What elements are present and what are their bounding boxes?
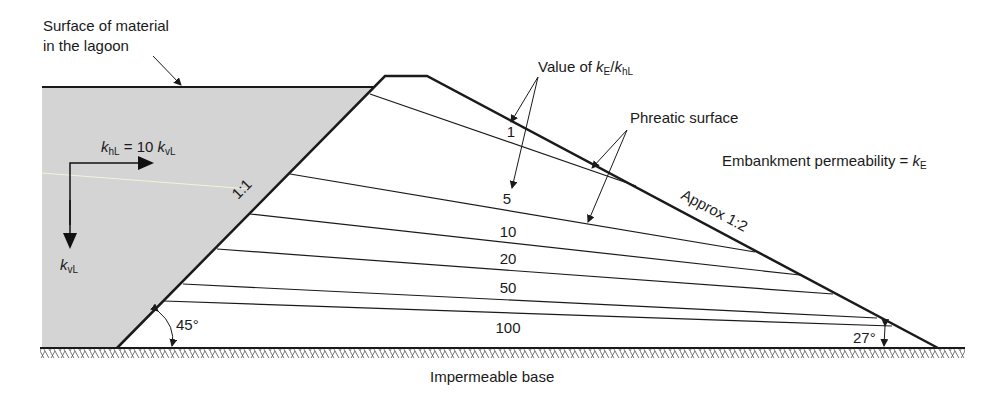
- ratio-label-10: 10: [500, 223, 517, 240]
- impermeable-base-hatch: [40, 349, 965, 358]
- surface-label-line2: in the lagoon: [43, 37, 129, 54]
- angle-label-45: 45°: [176, 316, 199, 333]
- ratio-label-100: 100: [495, 319, 520, 336]
- ratio-label-20: 20: [500, 250, 517, 267]
- lagoon-material: [42, 87, 374, 348]
- surface-label-line1: Surface of material: [43, 17, 169, 34]
- phreatic-line-20: [217, 249, 833, 294]
- embankment-seepage-diagram: 1 5 10 20 50 100 Surface of material in …: [0, 0, 1003, 394]
- phreatic-surface-label: Phreatic surface: [630, 109, 738, 126]
- phreatic-arrow-upper: [592, 130, 627, 168]
- ratio-label-50: 50: [500, 279, 517, 296]
- angle-label-27: 27°: [853, 329, 876, 346]
- phreatic-line-1: [370, 94, 636, 186]
- surface-pointer-arrow: [153, 56, 181, 85]
- ratio-label-1: 1: [507, 123, 515, 140]
- angle-arrow-27: [884, 326, 885, 346]
- downstream-slope-label: Approx 1:2: [679, 186, 751, 235]
- angle-arc-45: [158, 311, 173, 346]
- value-of-ratio-label: Value of kE/khL: [538, 58, 634, 77]
- impermeable-base-label: Impermeable base: [430, 368, 554, 385]
- phreatic-line-10: [250, 214, 800, 275]
- ratio-arrow-to-1: [511, 77, 538, 122]
- ratio-label-5: 5: [503, 190, 511, 207]
- embankment-permeability-label: Embankment permeability = kE: [722, 152, 927, 171]
- phreatic-arrow-lower: [588, 130, 627, 222]
